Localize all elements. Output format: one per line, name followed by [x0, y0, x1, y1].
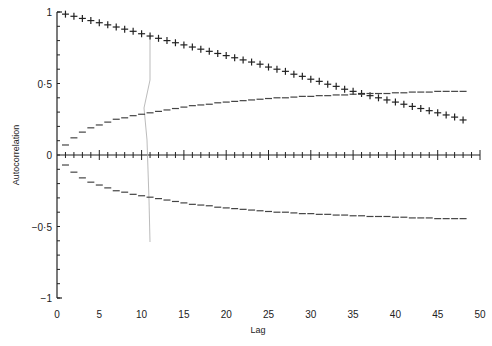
y-axis-ticks: −1−0·500·51: [32, 7, 60, 304]
x-tick-label: 5: [97, 309, 103, 320]
acf-point: [248, 59, 255, 66]
acf-point: [460, 116, 467, 123]
acf-point: [316, 78, 323, 85]
acf-point: [417, 105, 424, 112]
acf-point: [307, 76, 314, 83]
artifact-path: [144, 36, 150, 242]
acf-point: [96, 19, 103, 26]
acf-point: [358, 90, 365, 97]
acf-point: [341, 86, 348, 93]
acf-point: [324, 81, 331, 88]
acf-point: [104, 21, 111, 28]
x-tick-label: 0: [54, 309, 60, 320]
acf-point: [147, 33, 154, 40]
lower-band-series: [62, 165, 467, 219]
acf-point: [383, 96, 390, 103]
acf-point: [163, 37, 170, 44]
acf-point: [409, 103, 416, 110]
autocorrelation-chart: 05101520253035404550 −1−0·500·51 Lag Aut…: [0, 0, 492, 346]
x-tick-label: 50: [474, 309, 486, 320]
acf-series: [62, 11, 467, 124]
y-tick-label: −0·5: [32, 222, 53, 233]
y-axis-label: Autocorrelation: [11, 125, 21, 186]
acf-point: [265, 64, 272, 71]
acf-point: [79, 15, 86, 22]
acf-point: [282, 68, 289, 75]
acf-point: [172, 39, 179, 46]
x-tick-label: 35: [348, 309, 360, 320]
acf-point: [180, 41, 187, 48]
acf-point: [130, 28, 137, 35]
y-tick-label: 0: [46, 150, 52, 161]
x-axis-label: Lag: [250, 325, 265, 335]
acf-point: [375, 94, 382, 101]
x-tick-label: 45: [432, 309, 444, 320]
acf-point: [70, 13, 77, 20]
x-tick-label: 30: [305, 309, 317, 320]
x-tick-label: 15: [178, 309, 190, 320]
acf-point: [138, 30, 145, 37]
acf-point: [214, 50, 221, 57]
acf-point: [155, 35, 162, 42]
acf-point: [400, 101, 407, 108]
acf-point: [231, 54, 238, 61]
x-axis-ticks: 05101520253035404550: [54, 309, 486, 320]
acf-point: [223, 52, 230, 59]
acf-point: [273, 66, 280, 73]
acf-point: [257, 61, 264, 68]
acf-point: [113, 24, 120, 31]
acf-point: [62, 11, 69, 18]
acf-point: [197, 46, 204, 53]
acf-point: [240, 56, 247, 63]
acf-point: [333, 83, 340, 90]
upper-band-series: [62, 91, 467, 145]
y-tick-label: 1: [46, 7, 52, 18]
x-tick-label: 25: [263, 309, 275, 320]
acf-point: [189, 44, 196, 51]
acf-point: [451, 114, 458, 121]
acf-point: [392, 99, 399, 106]
acf-point: [206, 48, 213, 55]
acf-point: [87, 17, 94, 24]
acf-point: [299, 73, 306, 80]
x-tick-label: 20: [221, 309, 233, 320]
acf-point: [443, 111, 450, 118]
x-tick-label: 10: [136, 309, 148, 320]
acf-point: [121, 26, 128, 33]
y-tick-label: 0·5: [38, 79, 53, 90]
y-tick-label: −1: [41, 293, 53, 304]
scan-artifact-line: [144, 36, 150, 242]
acf-point: [426, 107, 433, 114]
x-tick-label: 40: [390, 309, 402, 320]
acf-point: [434, 109, 441, 116]
acf-point: [290, 71, 297, 78]
